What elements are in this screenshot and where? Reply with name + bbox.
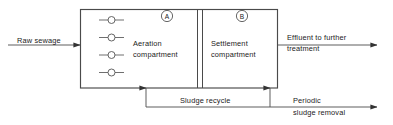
aeration-label-line1: Aeration xyxy=(133,39,162,48)
removal-label-line1: Periodic xyxy=(293,96,321,107)
compartment-marker-b-letter: B xyxy=(236,13,248,20)
settlement-label-line2: compartment xyxy=(211,50,256,59)
outlet-label-line1: Effluent to further xyxy=(287,33,346,42)
aerator-icon xyxy=(99,17,124,24)
inlet-label: Raw sewage xyxy=(17,36,61,47)
aerator-icon xyxy=(99,69,124,76)
aerator-icon xyxy=(99,52,124,59)
outlet-label-line2: treatment xyxy=(287,44,320,53)
aeration-label-line2: compartment xyxy=(133,50,178,59)
settlement-label-line1: Settlement xyxy=(211,39,248,48)
compartment-marker-a-letter: A xyxy=(161,13,173,20)
aeration-compartment-label: Aeration compartment xyxy=(133,39,178,60)
compartment-divider-wall xyxy=(198,10,203,89)
removal-label-line2: sludge removal xyxy=(293,108,345,119)
process-flow-diagram: Raw sewage Aeration compartment Settleme… xyxy=(0,0,393,125)
aerator-icon xyxy=(99,34,124,41)
settlement-compartment-label: Settlement compartment xyxy=(211,39,256,60)
recycle-label: Sludge recycle xyxy=(180,96,231,107)
outlet-label: Effluent to further treatment xyxy=(287,33,346,54)
